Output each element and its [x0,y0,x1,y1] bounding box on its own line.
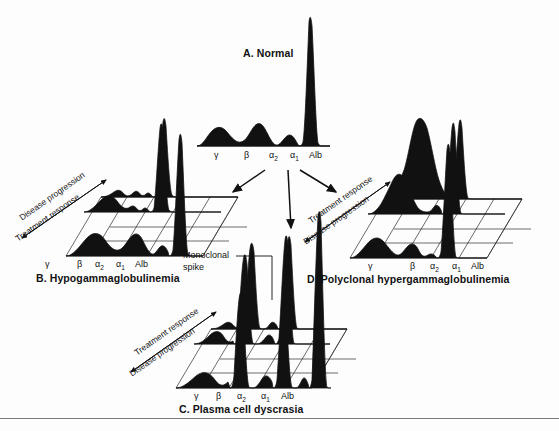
panel-b-tick-alpha1: α1 [116,259,125,271]
panel-c-tick-albumin: Alb [281,391,294,401]
monoclonal-spike-annotation-line2: spike [183,262,204,272]
panel-b-tick-albumin: Alb [135,259,148,269]
panel-d-tick-gamma: γ [368,261,373,271]
panel-b-trace-middle [84,124,221,212]
panel-a-plot [197,17,330,146]
figure-bottom-border [0,418,559,419]
panel-b-title: B. Hypogammaglobulinemia [36,272,180,284]
panel-b-tick-gamma: γ [45,259,50,269]
panel-a-tick-beta: β [244,150,249,160]
arrow-to-panel-d [300,170,336,192]
panel-c-plot [131,212,356,388]
panel-b-tick-alpha2: α2 [95,259,104,271]
panel-d-tick-alpha1: α1 [452,261,461,273]
arrow-to-panel-c [288,170,291,228]
panel-d-tick-beta: β [410,261,415,271]
panel-c-tick-gamma: γ [194,391,199,401]
panel-d-plot [305,118,531,258]
figure-canvas: A. Normal γ β α2 α1 Alb B. Hypogammaglob… [0,0,559,431]
panel-b-tick-beta: β [77,259,82,269]
panel-a-tick-alpha1: α1 [290,150,299,162]
panel-c-tick-alpha2: α2 [237,391,246,403]
panel-d-trace-middle [368,123,505,214]
panel-c-title: C. Plasma cell dyscrasia [179,403,303,415]
figure-artwork [0,0,559,431]
panel-a-tick-gamma: γ [214,150,219,160]
panel-c-tick-alpha1: α1 [261,391,270,403]
panel-a-tick-alpha2: α2 [269,150,278,162]
monoclonal-spike-annotation-line1: Monoclonal [183,250,229,260]
panel-c-tick-beta: β [216,391,221,401]
arrow-to-panel-b [233,170,265,192]
panel-d-tick-alpha2: α2 [430,261,439,273]
panel-d-tick-albumin: Alb [471,261,484,271]
panel-a-tick-albumin: Alb [309,150,322,160]
panel-d-title: D. Polyclonal hypergammaglobulinemia [307,273,510,285]
panel-a-title: A. Normal [243,47,294,59]
